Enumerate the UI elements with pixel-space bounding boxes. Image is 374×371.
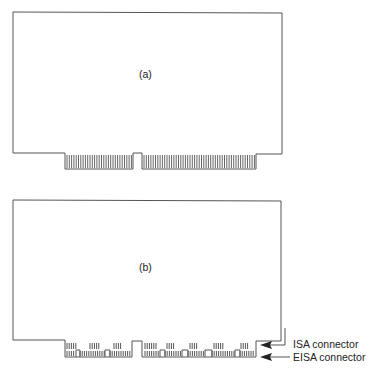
card-a-outline — [13, 12, 282, 169]
card-a-fingers — [67, 155, 254, 168]
isa-connector-label: ISA connector — [293, 338, 358, 350]
panel-b-label: (b) — [139, 261, 152, 273]
eisa-connector-label: EISA connector — [293, 351, 365, 363]
card-b-fingers — [67, 343, 253, 357]
card-b-outline — [13, 200, 281, 357]
diagram-canvas — [0, 0, 374, 371]
panel-a-label: (a) — [139, 68, 152, 80]
